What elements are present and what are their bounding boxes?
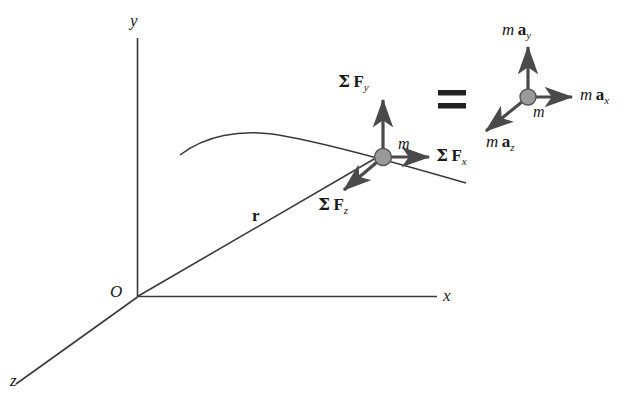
sigma-glyph-z: Σ xyxy=(318,194,330,214)
accel-x-mass: m xyxy=(580,85,592,104)
force-y-subscript: y xyxy=(364,81,369,93)
accel-x-symbol: a xyxy=(596,85,605,104)
force-z-label: Σ Fz xyxy=(318,196,348,213)
z-axis-line xyxy=(16,297,138,384)
particle-dot-forces xyxy=(375,149,392,166)
physics-diagram: y x z O r m Σ Fy Σ Fx Σ Fz m ay m ax m a… xyxy=(0,0,624,407)
acceleration-vectors-group xyxy=(486,47,572,131)
origin-label: O xyxy=(110,283,122,300)
accel-z-label: m az xyxy=(486,133,514,150)
z-axis-label: z xyxy=(10,372,17,389)
accel-x-subscript: x xyxy=(604,94,609,106)
diagram-canvas xyxy=(0,0,624,407)
axes-group xyxy=(16,38,437,384)
force-x-label: Σ Fx xyxy=(436,147,467,164)
position-vector-line xyxy=(138,155,382,297)
accel-z-subscript: z xyxy=(510,141,514,153)
mass-label-accelerations: m xyxy=(533,104,545,120)
accel-x-label: m ax xyxy=(580,86,609,103)
y-axis-label: y xyxy=(130,12,138,29)
position-vector-label: r xyxy=(252,207,260,224)
sigma-glyph-x: Σ xyxy=(436,145,448,165)
force-z-subscript: z xyxy=(344,204,348,216)
equals-sign-glyph xyxy=(438,90,466,109)
accel-y-subscript: y xyxy=(526,29,531,41)
accel-y-symbol: a xyxy=(518,20,527,39)
sigma-glyph-y: Σ xyxy=(338,71,350,91)
force-x-symbol: F xyxy=(451,146,461,165)
force-y-symbol: F xyxy=(353,72,363,91)
accel-y-label: m ay xyxy=(502,21,531,38)
accel-z-mass: m xyxy=(486,132,498,151)
force-z-symbol: F xyxy=(333,195,343,214)
x-axis-label: x xyxy=(443,287,451,304)
mass-label-forces: m xyxy=(398,136,410,152)
force-y-label: Σ Fy xyxy=(338,73,369,90)
force-x-subscript: x xyxy=(462,155,467,167)
accel-z-symbol: a xyxy=(502,132,511,151)
force-vectors-group xyxy=(344,100,429,190)
accel-y-mass: m xyxy=(502,20,514,39)
